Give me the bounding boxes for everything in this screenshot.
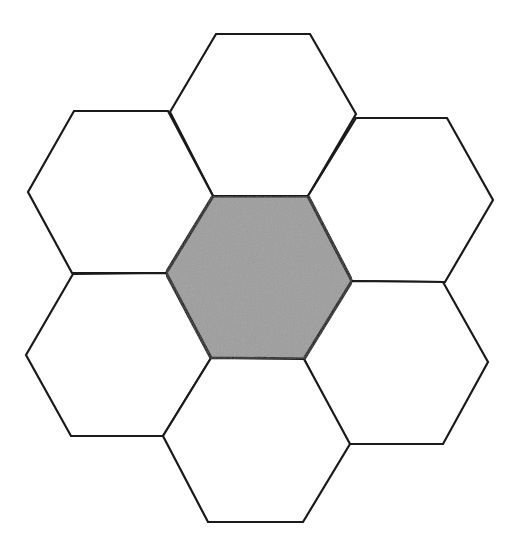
hexagon-cluster-diagram: [0, 0, 518, 546]
